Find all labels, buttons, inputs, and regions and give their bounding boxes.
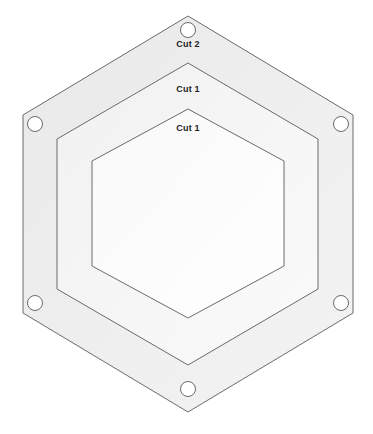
- hexagon-template-drawing: [0, 0, 373, 434]
- cut-1-inner-label: Cut 1: [176, 123, 200, 134]
- hole-bottom-left-icon: [28, 296, 43, 311]
- hole-top-icon: [181, 23, 196, 38]
- diagram-canvas: Cut 2Cut 1Cut 1: [0, 0, 373, 434]
- cut-1-outer-label: Cut 1: [176, 84, 200, 95]
- cut-2-label: Cut 2: [176, 39, 200, 50]
- hole-bottom-right-icon: [334, 296, 349, 311]
- hole-top-left-icon: [28, 117, 43, 132]
- hole-bottom-icon: [181, 382, 196, 397]
- hole-top-right-icon: [334, 117, 349, 132]
